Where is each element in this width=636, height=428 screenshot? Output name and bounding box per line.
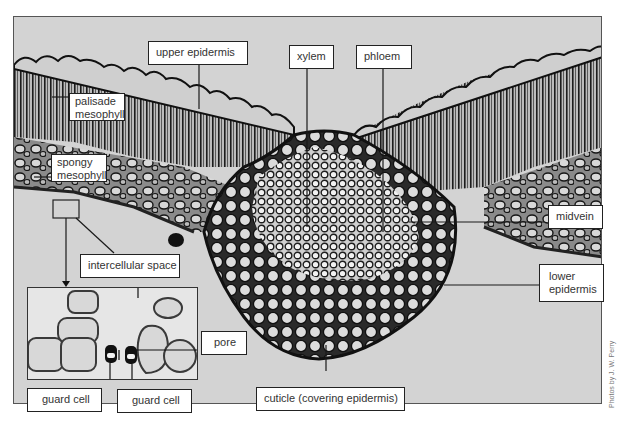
label-upper-epidermis: upper epidermis (148, 41, 248, 65)
stoma-inset-photo (27, 287, 198, 380)
label-midvein: midvein (548, 205, 603, 229)
label-spongy-mesophyll: spongy mesophyll (51, 154, 107, 182)
label-phloem: phloem (356, 45, 412, 69)
photo-credit: Photos by J. W. Perry (606, 330, 620, 410)
label-intercellular-space: intercellular space (80, 254, 180, 278)
label-lower-epidermis: lower epidermis (539, 264, 604, 302)
stoma-illustration (28, 288, 198, 380)
label-cuticle: cuticle (covering epidermis) (256, 387, 405, 411)
photo-credit-text: Photos by J. W. Perry (608, 341, 615, 408)
label-guard-cell-right: guard cell (117, 389, 192, 413)
label-guard-cell-left: guard cell (27, 388, 102, 412)
label-pore: pore (201, 331, 247, 355)
label-xylem: xylem (289, 45, 334, 69)
label-palisade-mesophyll: palisade mesophyll (69, 93, 125, 121)
